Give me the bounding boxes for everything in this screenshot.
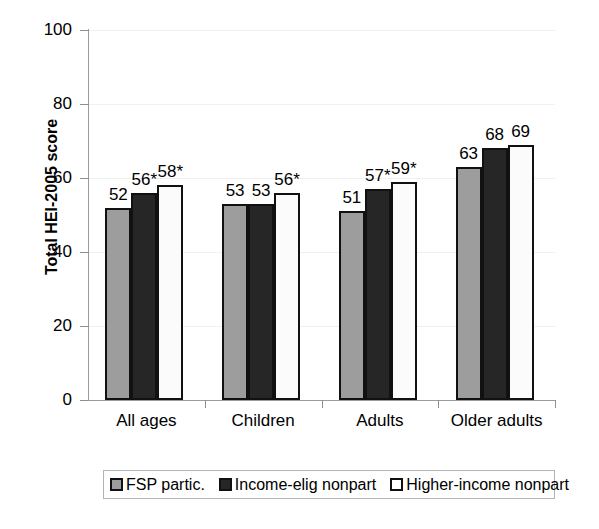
x-category-label: Children xyxy=(205,412,322,429)
plot-area xyxy=(88,30,555,400)
y-tick-mark xyxy=(80,400,89,401)
legend-item[interactable]: Income-elig nonpart xyxy=(219,477,376,493)
x-tick-mark xyxy=(555,400,556,408)
legend-swatch-icon xyxy=(390,478,403,491)
x-tick-mark xyxy=(322,400,323,408)
x-tick-mark xyxy=(205,400,206,408)
bar[interactable] xyxy=(274,193,300,400)
bar[interactable] xyxy=(105,208,131,400)
bar-value-label: 69 xyxy=(499,123,543,140)
bar[interactable] xyxy=(365,189,391,400)
bar[interactable] xyxy=(339,211,365,400)
bar-chart: Total HEI-2005 score 020406080100 5256*5… xyxy=(0,0,599,529)
x-category-label: Adults xyxy=(322,412,439,429)
bar[interactable] xyxy=(391,182,417,400)
y-tick-label: 40 xyxy=(12,243,72,260)
bar[interactable] xyxy=(482,148,508,400)
bar-value-label: 59* xyxy=(382,160,426,177)
legend-label: Income-elig nonpart xyxy=(235,477,376,493)
y-tick-label: 0 xyxy=(12,391,72,408)
bar-value-label: 58* xyxy=(148,163,192,180)
legend-swatch-icon xyxy=(110,478,123,491)
y-tick-label: 20 xyxy=(12,317,72,334)
bar[interactable] xyxy=(157,185,183,400)
legend-label: FSP partic. xyxy=(126,477,205,493)
legend: FSP partic.Income-elig nonpartHigher-inc… xyxy=(103,470,555,499)
bar[interactable] xyxy=(456,167,482,400)
y-tick-label: 60 xyxy=(12,169,72,186)
x-category-label: Older adults xyxy=(438,412,555,429)
legend-item[interactable]: Higher-income nonpart xyxy=(390,477,569,493)
bar-value-label: 56* xyxy=(265,171,309,188)
bar[interactable] xyxy=(222,204,248,400)
legend-swatch-icon xyxy=(219,478,232,491)
y-tick-label: 80 xyxy=(12,95,72,112)
bar[interactable] xyxy=(248,204,274,400)
y-tick-label: 100 xyxy=(12,21,72,38)
bar[interactable] xyxy=(131,193,157,400)
bar[interactable] xyxy=(508,145,534,400)
x-category-label: All ages xyxy=(88,412,205,429)
x-tick-mark xyxy=(438,400,439,408)
legend-label: Higher-income nonpart xyxy=(406,477,569,493)
legend-item[interactable]: FSP partic. xyxy=(110,477,205,493)
